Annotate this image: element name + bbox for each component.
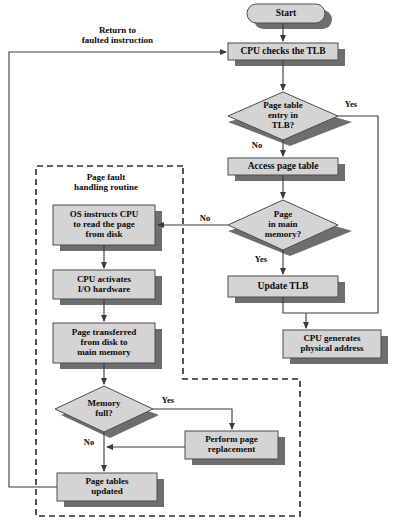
edge-label-no-memory-full: No (80, 438, 98, 448)
label-update-tlb: Update TLB (228, 276, 338, 297)
label-page-tables-updated: Page tables updated (57, 473, 157, 501)
label-page-in-main-memory: Page in main memory? (233, 202, 333, 248)
page-fault-handling-routine-title: Page fault handling routine (46, 172, 166, 193)
edge-label-yes-main-memory: Yes (250, 255, 272, 265)
edge-memory-full-yes (153, 409, 232, 429)
edge-label-return-to-faulted-instruction: Return to faulted instruction (55, 25, 180, 46)
flowchart-page: Start CPU checks the TLB Page table entr… (0, 0, 393, 529)
label-start: Start (247, 4, 325, 23)
label-os-instructs-cpu: OS instructs CPU to read the page from d… (53, 205, 155, 245)
edge-label-yes-memory-full: Yes (157, 396, 179, 406)
label-access-page-table: Access page table (228, 158, 338, 175)
label-cpu-generates-physical-address: CPU generates physical address (283, 330, 381, 358)
edge-label-no-tlb: No (248, 141, 266, 151)
edge-label-yes-tlb: Yes (340, 100, 362, 110)
label-memory-full: Memory full? (60, 388, 148, 430)
label-cpu-checks-tlb: CPU checks the TLB (228, 43, 338, 60)
label-perform-page-replacement: Perform page replacement (185, 431, 278, 459)
label-page-transferred: Page transferred from disk to main memor… (53, 323, 155, 363)
edge-label-no-main-memory: No (196, 214, 214, 224)
label-cpu-activates-io: CPU activates I/O hardware (53, 270, 155, 299)
label-pte-in-tlb: Page table entry in TLB? (233, 94, 333, 138)
